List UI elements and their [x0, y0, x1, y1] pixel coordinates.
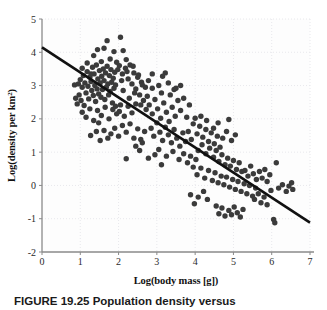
data-point [245, 173, 250, 178]
data-point [211, 125, 216, 130]
data-point [284, 189, 289, 194]
data-point [227, 184, 232, 189]
data-point [87, 106, 92, 111]
data-point [120, 88, 125, 93]
data-point [168, 92, 173, 97]
y-tick-label: -2 [28, 247, 36, 258]
data-point [80, 110, 85, 115]
data-point [193, 157, 198, 162]
data-point [218, 173, 223, 178]
data-point [192, 115, 197, 120]
data-point [175, 98, 180, 103]
data-point [101, 128, 106, 133]
data-point [196, 194, 201, 199]
data-point [215, 180, 220, 185]
data-point [97, 138, 102, 143]
data-point [259, 175, 264, 180]
data-point [160, 138, 165, 143]
y-tick-label: 3 [31, 80, 36, 91]
data-point [194, 131, 199, 136]
data-point [200, 134, 205, 139]
data-point [131, 135, 136, 140]
data-point [216, 211, 221, 216]
scatter-plot: 01234567-2-1012345 Log(body mass [g])Log… [0, 0, 327, 310]
data-point [99, 59, 104, 64]
x-tick-label: 3 [154, 256, 159, 267]
data-point [89, 88, 94, 93]
x-axis-title: Log(body mass [g]) [134, 275, 219, 287]
data-point [264, 179, 269, 184]
data-point [80, 66, 85, 71]
data-point [274, 160, 279, 165]
data-point [91, 93, 96, 98]
data-point [191, 121, 196, 126]
data-point [264, 202, 269, 207]
data-point [166, 80, 171, 85]
data-point [119, 78, 124, 83]
data-point [166, 119, 171, 124]
data-point [233, 187, 238, 192]
data-point [147, 102, 152, 107]
x-tick-label: 2 [116, 256, 121, 267]
data-point [105, 135, 110, 140]
data-point [240, 207, 245, 212]
data-point [111, 76, 116, 81]
data-point [88, 71, 93, 76]
data-point [178, 108, 183, 113]
data-point [224, 174, 229, 179]
data-point [132, 90, 137, 95]
data-point [124, 69, 129, 74]
data-point [258, 200, 263, 205]
data-point [124, 129, 129, 134]
data-point [210, 178, 215, 183]
data-point [244, 191, 249, 196]
x-tick-label: 5 [231, 256, 236, 267]
data-point [203, 127, 208, 132]
data-point [178, 83, 183, 88]
data-point [88, 133, 93, 138]
data-point [194, 172, 199, 177]
data-point [78, 98, 83, 103]
data-point [173, 86, 178, 91]
data-point [238, 189, 243, 194]
data-point [152, 152, 157, 157]
data-point [234, 167, 239, 172]
data-point [127, 121, 132, 126]
data-point [267, 172, 272, 177]
data-point [184, 114, 189, 119]
data-point [209, 130, 214, 135]
data-point [212, 141, 217, 146]
data-point [122, 113, 127, 118]
data-point [145, 94, 150, 99]
data-point [150, 71, 155, 76]
data-point [188, 153, 193, 158]
data-point [221, 182, 226, 187]
x-tick-label: 6 [269, 256, 274, 267]
data-point [197, 123, 202, 128]
data-point [146, 155, 151, 160]
data-point [257, 169, 262, 174]
data-point [156, 147, 161, 152]
data-point [233, 132, 238, 137]
data-point [143, 107, 148, 112]
data-point [113, 82, 118, 87]
data-point [120, 123, 125, 128]
data-point [117, 109, 122, 114]
data-point [205, 197, 210, 202]
x-tick-label: 7 [308, 256, 313, 267]
data-point [180, 130, 185, 135]
data-point [156, 83, 161, 88]
data-point [242, 168, 247, 173]
data-point [189, 137, 194, 142]
data-point [207, 145, 212, 150]
data-point [199, 142, 204, 147]
data-point [137, 148, 142, 153]
caption-text: Population density versus [93, 295, 236, 307]
data-point [124, 57, 129, 62]
data-point [146, 78, 151, 83]
data-point [111, 49, 116, 54]
data-point [83, 90, 88, 95]
data-point [152, 97, 157, 102]
data-point [102, 105, 107, 110]
data-point [120, 48, 125, 53]
